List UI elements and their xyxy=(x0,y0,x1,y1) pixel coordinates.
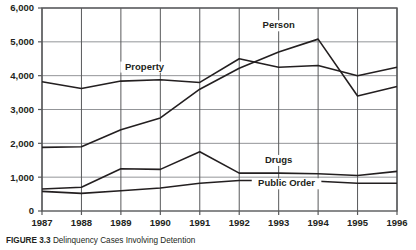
y-axis-tick-label: 2,000 xyxy=(10,138,34,149)
x-axis-tick-label: 1994 xyxy=(308,217,330,228)
x-axis-tick-label: 1990 xyxy=(150,217,171,228)
x-axis-tick-label: 1993 xyxy=(268,217,289,228)
y-axis-tick-label: 5,000 xyxy=(10,36,34,47)
figure-container: 01,0002,0003,0004,0005,0006,000 19871988… xyxy=(0,0,416,250)
series-label-person: Person xyxy=(263,19,295,30)
y-axis-tick-label: 0 xyxy=(29,205,34,216)
y-axis-tick-labels: 01,0002,0003,0004,0005,0006,000 xyxy=(10,2,34,216)
x-axis-tick-label: 1995 xyxy=(347,217,369,228)
y-axis-tick-label: 6,000 xyxy=(10,2,34,13)
x-axis-tick-labels: 1987198819891990199119921993199419951996 xyxy=(31,217,407,228)
figure-caption-text: Delinquency Cases Involving Detention xyxy=(53,236,195,245)
x-axis-tick-label: 1987 xyxy=(31,217,52,228)
y-axis-tick-label: 3,000 xyxy=(10,104,34,115)
series-label-property: Property xyxy=(125,61,165,72)
y-axis-tick-label: 1,000 xyxy=(10,172,34,183)
x-axis-tick-label: 1992 xyxy=(229,217,250,228)
x-axis-tick-label: 1989 xyxy=(110,217,131,228)
y-axis-tick-label: 4,000 xyxy=(10,70,34,81)
line-chart: 01,0002,0003,0004,0005,0006,000 19871988… xyxy=(0,0,416,250)
series-label-drugs: Drugs xyxy=(265,154,292,165)
figure-caption: FIGURE 3.3 Delinquency Cases Involving D… xyxy=(6,236,412,246)
series-label-public-order: Public Order xyxy=(258,177,315,188)
x-axis-tick-label: 1996 xyxy=(386,217,407,228)
x-axis-tick-label: 1991 xyxy=(189,217,211,228)
figure-number: FIGURE 3.3 xyxy=(6,236,51,245)
x-axis-tick-label: 1988 xyxy=(71,217,92,228)
